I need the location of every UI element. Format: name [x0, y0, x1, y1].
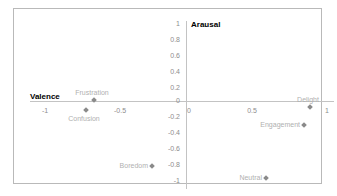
data-point-label: Frustration [75, 89, 108, 97]
data-point-label: Delight [297, 96, 319, 104]
data-point-label: Confusion [68, 115, 100, 123]
xtick-label: 1 [317, 107, 337, 115]
ytick-label: 0.8 [154, 36, 180, 44]
ytick-label: -0.2 [154, 113, 180, 121]
ytick-label: -0.4 [154, 129, 180, 137]
arousal-axis-line [186, 21, 187, 189]
ytick-label: 0 [154, 97, 180, 105]
xtick-label: -1 [35, 107, 55, 115]
affect-space-scatter-chart: Arausal Valence 1 0.8 0.6 0.4 0.2 0 -0.2… [0, 0, 337, 196]
arousal-axis-title: Arausal [191, 20, 220, 29]
diamond-marker [301, 122, 307, 128]
ytick-label: -1 [154, 177, 180, 185]
data-point-label: Neutral [239, 174, 262, 182]
ytick-label: -0.8 [154, 161, 180, 169]
data-point-label: Engagement [260, 121, 300, 129]
ytick-label: 0.4 [154, 68, 180, 76]
ytick-label: -0.6 [154, 145, 180, 153]
data-point-label: Boredom [120, 162, 148, 170]
ytick-label: 0.2 [154, 84, 180, 92]
diamond-marker [263, 175, 269, 181]
ytick-label: 0.6 [154, 52, 180, 60]
diamond-marker [83, 107, 89, 113]
valence-axis-title: Valence [30, 92, 60, 101]
xtick-label: 0.5 [242, 107, 262, 115]
valence-axis-line [30, 101, 334, 102]
diamond-marker [307, 104, 313, 110]
ytick-label: 1 [154, 20, 180, 28]
xtick-label: -0.5 [110, 107, 130, 115]
plot-frame: Arausal Valence 1 0.8 0.6 0.4 0.2 0 -0.2… [13, 8, 322, 184]
xtick-label: 0 [179, 107, 199, 115]
